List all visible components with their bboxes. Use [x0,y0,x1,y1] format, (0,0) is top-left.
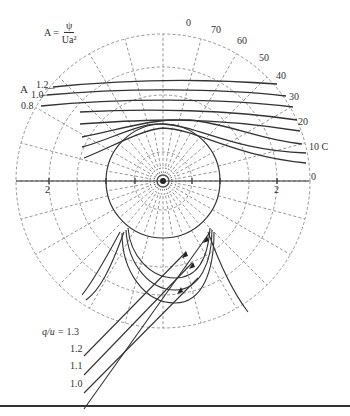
angle-label: 20 [298,117,308,127]
formula-lhs: A = [44,27,59,38]
streamlines [41,80,306,163]
formula-numerator: ψ [64,20,74,33]
angle-label: 30 [289,92,299,102]
angle-label: 50 [259,53,269,63]
polar-flow-diagram [0,0,350,416]
axis-label-left-2: 2 [45,185,50,195]
cylinder-and-axis [16,124,309,238]
angle-label: 70 [211,25,221,35]
angle-label: 0 [311,172,316,182]
q-u-label-1.3: q/u = 1.3 [42,327,79,337]
streamline-value-0.8: 0.8 [21,101,34,111]
bottom-rule [0,405,350,407]
stream-function-formula: A = ψ Ua² [44,20,76,45]
formula-denominator: Ua² [62,33,77,45]
q-u-label-1.2: 1.2 [70,344,83,354]
axis-label-right-2: 2 [274,185,279,195]
formula-fraction: ψ Ua² [62,20,77,45]
streamline-label-A: A [20,84,28,95]
q-u-prefix: q/u = [42,326,64,337]
q-u-label-1.0: 1.0 [70,379,83,389]
q-u-curves [82,228,248,409]
angle-label: 10 C [309,142,328,152]
angle-label: 60 [237,36,247,46]
q-u-label-1.1: 1.1 [70,361,83,371]
angle-label: 0 [186,18,191,28]
angle-label: 40 [276,71,286,81]
streamline-value-1.0: 1.0 [31,90,44,100]
